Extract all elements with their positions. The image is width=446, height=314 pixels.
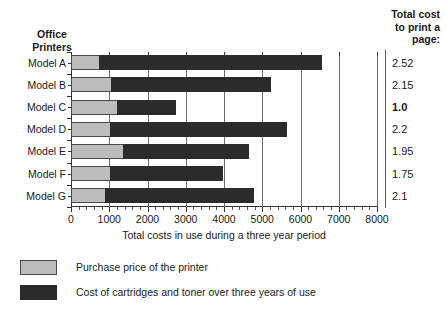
x-axis-minor-tick bbox=[278, 207, 279, 210]
bar-segment-purchase-price[interactable] bbox=[71, 122, 111, 137]
category-label-model-c: Model C bbox=[0, 96, 66, 118]
cost-per-page-value: 1.75 bbox=[392, 163, 426, 185]
x-axis-tick-2000 bbox=[148, 207, 149, 212]
x-axis-top-tick bbox=[186, 52, 187, 56]
cost-per-page-value: 1.95 bbox=[392, 140, 426, 162]
x-axis-minor-tick bbox=[117, 207, 118, 210]
chart-legend: Purchase price of the printerCost of car… bbox=[20, 258, 420, 308]
legend-item: Purchase price of the printer bbox=[20, 258, 420, 283]
legend-swatch-purchase bbox=[20, 260, 57, 275]
x-axis-minor-tick bbox=[270, 207, 271, 210]
x-axis-minor-tick bbox=[232, 207, 233, 210]
bar-segment-purchase-price[interactable] bbox=[71, 166, 111, 181]
x-axis-minor-tick bbox=[331, 207, 332, 210]
x-axis-minor-tick bbox=[163, 207, 164, 210]
x-axis-tick-label-6000: 6000 bbox=[289, 213, 312, 225]
chart-plot-area bbox=[71, 52, 377, 207]
total-cost-per-page-values: 2.522.151.02.21.951.752.1 bbox=[392, 52, 446, 207]
x-axis-tick-5000 bbox=[262, 207, 263, 212]
stacked-bar[interactable] bbox=[71, 77, 271, 92]
bar-row bbox=[71, 140, 377, 162]
x-axis-minor-tick bbox=[86, 207, 87, 210]
total-cost-heading-line3: page: bbox=[378, 33, 440, 46]
category-label-model-e: Model E bbox=[0, 140, 66, 162]
x-axis-top-tick bbox=[301, 52, 302, 56]
gridline-8000 bbox=[377, 52, 378, 207]
x-axis-tick-6000 bbox=[301, 207, 302, 212]
x-axis-tick-label-2000: 2000 bbox=[136, 213, 159, 225]
bar-segment-cartridge-toner-cost[interactable] bbox=[111, 77, 271, 92]
x-axis-minor-tick bbox=[346, 207, 347, 210]
cost-per-page-value: 2.52 bbox=[392, 52, 426, 74]
x-axis-top-tick bbox=[377, 52, 378, 56]
x-axis-top-tick bbox=[148, 52, 149, 56]
x-axis-minor-tick bbox=[193, 207, 194, 210]
x-axis-minor-tick bbox=[308, 207, 309, 210]
total-cost-heading: Total cost to print a page: bbox=[378, 8, 440, 46]
x-axis-minor-tick bbox=[170, 207, 171, 210]
bar-row bbox=[71, 74, 377, 96]
x-axis-tick-0 bbox=[71, 207, 72, 212]
x-axis-minor-tick bbox=[247, 207, 248, 210]
x-axis-tick-label-0: 0 bbox=[68, 213, 74, 225]
bar-row bbox=[71, 118, 377, 140]
x-axis-minor-tick bbox=[239, 207, 240, 210]
x-axis-tick-label-3000: 3000 bbox=[174, 213, 197, 225]
cost-per-page-value: 2.2 bbox=[392, 118, 426, 140]
x-axis-tick-label-8000: 8000 bbox=[365, 213, 388, 225]
x-axis-minor-tick bbox=[216, 207, 217, 210]
bar-segment-cartridge-toner-cost[interactable] bbox=[110, 166, 223, 181]
x-axis-minor-tick bbox=[323, 207, 324, 210]
stacked-bar[interactable] bbox=[71, 100, 176, 115]
category-label-model-a: Model A bbox=[0, 52, 66, 74]
stacked-bar[interactable] bbox=[71, 55, 322, 70]
x-axis-minor-tick bbox=[255, 207, 256, 210]
x-axis-minor-tick bbox=[316, 207, 317, 210]
x-axis-tick-label-5000: 5000 bbox=[251, 213, 274, 225]
x-axis-top-tick bbox=[262, 52, 263, 56]
bar-segment-purchase-price[interactable] bbox=[71, 100, 118, 115]
legend-label-cartridge: Cost of cartridges and toner over three … bbox=[76, 283, 316, 302]
x-axis-minor-tick bbox=[354, 207, 355, 210]
bar-segment-cartridge-toner-cost[interactable] bbox=[123, 144, 249, 159]
bar-row bbox=[71, 96, 377, 118]
x-axis-minor-tick bbox=[369, 207, 370, 210]
bar-row bbox=[71, 163, 377, 185]
values-column-divider bbox=[385, 50, 386, 208]
x-axis-tick-8000 bbox=[377, 207, 378, 212]
legend-swatch-cartridge bbox=[20, 285, 57, 300]
x-axis-top-tick bbox=[224, 52, 225, 56]
bar-segment-cartridge-toner-cost[interactable] bbox=[99, 55, 323, 70]
total-cost-heading-line1: Total cost bbox=[378, 8, 440, 21]
x-axis-tick-4000 bbox=[224, 207, 225, 212]
x-axis-minor-tick bbox=[79, 207, 80, 210]
stacked-bar[interactable] bbox=[71, 166, 223, 181]
bar-segment-cartridge-toner-cost[interactable] bbox=[105, 188, 254, 203]
bar-segment-purchase-price[interactable] bbox=[71, 144, 124, 159]
x-axis-minor-tick bbox=[201, 207, 202, 210]
x-axis-minor-tick bbox=[285, 207, 286, 210]
x-axis-minor-tick bbox=[102, 207, 103, 210]
x-axis-minor-tick bbox=[140, 207, 141, 210]
x-axis-minor-tick bbox=[132, 207, 133, 210]
stacked-bar[interactable] bbox=[71, 188, 254, 203]
x-axis-minor-tick bbox=[209, 207, 210, 210]
bar-segment-cartridge-toner-cost[interactable] bbox=[117, 100, 176, 115]
cost-per-page-value: 2.15 bbox=[392, 74, 426, 96]
bar-segment-cartridge-toner-cost[interactable] bbox=[110, 122, 287, 137]
category-label-model-d: Model D bbox=[0, 118, 66, 140]
x-axis-minor-tick bbox=[125, 207, 126, 210]
bar-segment-purchase-price[interactable] bbox=[71, 55, 100, 70]
legend-item: Cost of cartridges and toner over three … bbox=[20, 283, 420, 308]
x-axis-top-tick bbox=[339, 52, 340, 56]
bar-segment-purchase-price[interactable] bbox=[71, 188, 106, 203]
stacked-bar[interactable] bbox=[71, 144, 249, 159]
office-printers-heading: Office Printers bbox=[22, 28, 82, 53]
category-label-model-b: Model B bbox=[0, 74, 66, 96]
x-axis-tick-label-1000: 1000 bbox=[98, 213, 121, 225]
x-axis-tick-3000 bbox=[186, 207, 187, 212]
cost-per-page-value: 1.0 bbox=[392, 96, 426, 118]
bar-segment-purchase-price[interactable] bbox=[71, 77, 112, 92]
x-axis-title: Total costs in use during a three year p… bbox=[71, 229, 377, 241]
stacked-bar[interactable] bbox=[71, 122, 287, 137]
